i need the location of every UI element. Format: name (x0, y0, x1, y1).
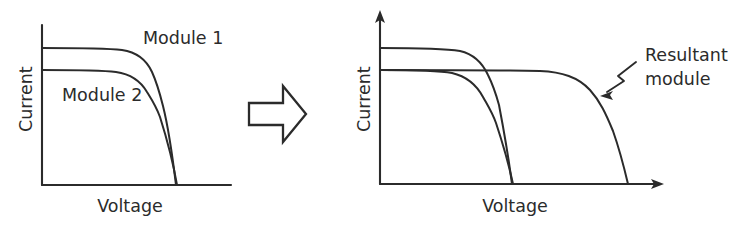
left-chart-label-module-2: Module 2 (62, 85, 142, 105)
block-arrow-right-icon (249, 86, 306, 142)
resultant-leader-line (600, 62, 636, 100)
right-chart-x-axis-label: Voltage (482, 196, 548, 216)
left-chart-label-module-1: Module 1 (143, 28, 223, 48)
left-chart-x-axis-label: Voltage (97, 196, 163, 216)
left-chart-curve-module-1 (42, 48, 176, 185)
left-chart-y-axis-label: Current (16, 66, 36, 132)
left-chart: Current Voltage Module 1 Module 2 (16, 25, 231, 216)
iv-curve-figure: Current Voltage Module 1 Module 2 (0, 0, 741, 228)
resultant-annotation-line-2: module (645, 69, 711, 89)
figure-root: Current Voltage Module 1 Module 2 (0, 0, 741, 228)
right-chart: Current Voltage Resultant module (354, 10, 728, 216)
resultant-annotation-line-1: Resultant (645, 45, 728, 65)
right-chart-y-axis-label: Current (354, 66, 374, 132)
